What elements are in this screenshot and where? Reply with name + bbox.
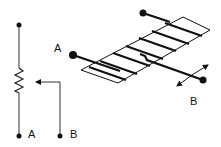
schematic-label-a: A [28,128,36,140]
physical-terminal-top-dot [140,10,147,17]
physical-terminal-a-dot [69,51,77,59]
physical-slide-potentiometer: A B [54,10,210,108]
wiper-arrow-icon [36,82,60,136]
potentiometer-diagram: A B A B [0,0,221,147]
slide-arrow-left-icon [177,75,192,86]
slide-arrow-right-icon [192,65,208,75]
physical-terminal-b-dot [200,77,207,84]
terminal-a-dot [17,134,22,139]
physical-label-a: A [54,42,62,54]
schematic-label-b: B [70,128,77,140]
terminal-b-dot [58,134,63,139]
physical-label-b: B [190,95,197,107]
schematic-potentiometer: A B [15,23,77,141]
top-terminal-dot [17,23,22,28]
